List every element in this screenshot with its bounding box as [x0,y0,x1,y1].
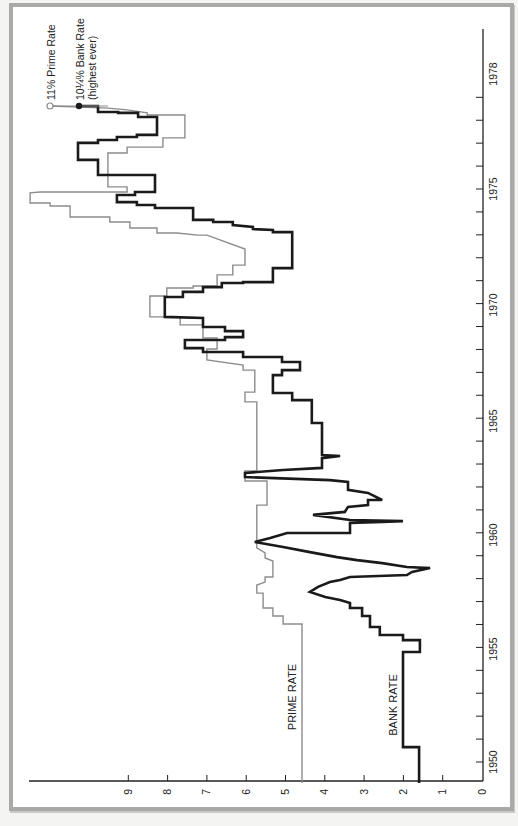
year-tick-label: 1978 [487,62,499,86]
year-tick-label: 1975 [487,177,499,201]
year-tick-label: 1950 [487,750,499,774]
prime-annotation-text: 11% Prime Rate [45,24,57,100]
series [30,106,430,783]
year-tick-label: 1960 [487,523,499,547]
annotations: 11% Prime Rate 10¼% Bank Rate (highest e… [45,18,108,109]
rate-tick-label: 5 [279,789,291,795]
rate-ticks: 0123456789 [122,775,488,795]
year-ticks: 1950195519601965197019751978 [476,62,499,774]
bank-filled-circle-icon [76,103,82,109]
year-tick-label: 1955 [487,637,499,661]
bank-rate-label: BANK RATE [387,674,399,736]
prime-rate-label: PRIME RATE [286,664,298,730]
bank-annotation-subtext: (highest ever) [86,36,98,100]
rate-tick-label: 8 [161,789,173,795]
year-tick-label: 1970 [487,293,499,317]
rate-tick-label: 0 [476,789,488,795]
bank-annotation-text: 10¼% Bank Rate [74,18,86,100]
prime-open-circle-icon [47,103,53,109]
rate-tick-label: 3 [358,789,370,795]
bank-rate-series-label: BANK RATE [387,674,399,736]
prime-rate-series-label: PRIME RATE [286,664,298,730]
rate-tick-label: 7 [200,789,212,795]
rate-tick-label: 1 [436,789,448,795]
interest-rate-chart: 0123456789 1950195519601965197019751978 … [0,0,518,826]
rate-tick-label: 9 [122,789,134,795]
bank-rate-line [78,106,430,783]
axes: 0123456789 1950195519601965197019751978 [29,29,499,795]
rate-tick-label: 2 [397,789,409,795]
year-tick-label: 1965 [487,409,499,433]
rate-tick-label: 4 [318,789,330,795]
rate-tick-label: 6 [240,789,252,795]
